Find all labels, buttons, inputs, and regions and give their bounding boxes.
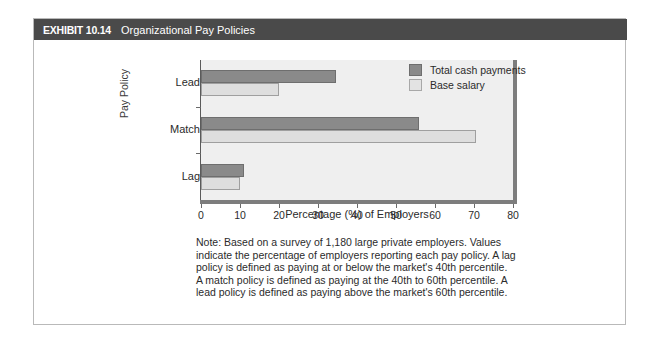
- plot-frame: 01020304050607080 Total cash paymentsBas…: [201, 60, 513, 200]
- bar-match-total-cash: [201, 117, 419, 130]
- note-line: policy is defined as paying at or below …: [196, 261, 556, 274]
- chart-legend: Total cash paymentsBase salary: [409, 64, 526, 91]
- bar-match-base-salary: [201, 130, 476, 143]
- exhibit-card: EXHIBIT 10.14 Organizational Pay Policie…: [33, 18, 626, 325]
- y-axis-category-label: Lead: [130, 76, 200, 88]
- y-axis-category-label: Match: [130, 123, 200, 135]
- bar-lead-total-cash: [201, 70, 336, 83]
- legend-item: Total cash payments: [409, 64, 526, 76]
- legend-swatch-icon: [409, 79, 422, 91]
- y-axis-tick-labels: LeadMatchLag: [130, 60, 200, 200]
- note-line: indicate the percentage of employers rep…: [196, 249, 556, 262]
- bar-chart: Pay Policy LeadMatchLag 0102030405060708…: [34, 40, 625, 230]
- bar-lag-total-cash: [201, 164, 244, 177]
- y-tick-mark: [196, 153, 201, 154]
- bar-lag-base-salary: [201, 177, 240, 190]
- exhibit-title: Organizational Pay Policies: [121, 24, 255, 36]
- y-tick-mark: [196, 107, 201, 108]
- legend-item: Base salary: [409, 79, 526, 91]
- x-axis-title: Percentage (%) of Employers: [201, 208, 513, 220]
- note-line: A match policy is defined as paying at t…: [196, 274, 556, 287]
- x-axis-line: [200, 200, 517, 204]
- note-line: Note: Based on a survey of 1,180 large p…: [196, 236, 556, 249]
- legend-label: Base salary: [430, 79, 485, 91]
- y-axis-title: Pay Policy: [118, 69, 130, 118]
- legend-label: Total cash payments: [430, 64, 526, 76]
- note-line: lead policy is defined as paying above t…: [196, 286, 556, 299]
- y-axis-category-label: Lag: [130, 170, 200, 182]
- exhibit-number-label: EXHIBIT 10.14: [43, 24, 111, 36]
- exhibit-header-bar: EXHIBIT 10.14 Organizational Pay Policie…: [34, 19, 627, 40]
- legend-swatch-icon: [409, 64, 422, 76]
- exhibit-body: Pay Policy LeadMatchLag 0102030405060708…: [34, 40, 625, 324]
- x-tick-mark: [513, 204, 514, 208]
- chart-note: Note: Based on a survey of 1,180 large p…: [196, 236, 556, 299]
- bar-lead-base-salary: [201, 83, 279, 96]
